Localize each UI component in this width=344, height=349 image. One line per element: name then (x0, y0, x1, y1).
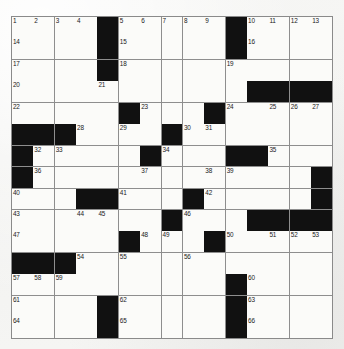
letter-square[interactable]: 8 (183, 17, 204, 38)
letter-square[interactable] (247, 231, 268, 252)
letter-square[interactable] (311, 317, 332, 338)
letter-square[interactable] (97, 167, 118, 188)
letter-square[interactable]: 61 (12, 296, 33, 317)
letter-square[interactable]: 26 (290, 103, 311, 124)
letter-square[interactable]: 19 (226, 60, 247, 81)
letter-square[interactable] (268, 38, 289, 59)
letter-square[interactable] (226, 124, 247, 145)
letter-square[interactable]: 9 (204, 17, 225, 38)
letter-square[interactable]: 20 (12, 81, 33, 102)
letter-square[interactable] (55, 210, 76, 231)
letter-square[interactable]: 54 (76, 253, 97, 274)
letter-square[interactable] (33, 60, 54, 81)
letter-square[interactable] (97, 146, 118, 167)
letter-square[interactable] (311, 296, 332, 317)
letter-square[interactable]: 1 (12, 17, 33, 38)
letter-square[interactable]: 52 (290, 231, 311, 252)
letter-square[interactable]: 32 (33, 146, 54, 167)
letter-square[interactable]: 65 (119, 317, 140, 338)
letter-square[interactable] (268, 167, 289, 188)
letter-square[interactable] (33, 81, 54, 102)
letter-square[interactable]: 46 (183, 210, 204, 231)
letter-square[interactable]: 48 (140, 231, 161, 252)
letter-square[interactable] (204, 81, 225, 102)
letter-square[interactable]: 21 (97, 81, 118, 102)
letter-square[interactable] (311, 253, 332, 274)
letter-square[interactable] (162, 167, 183, 188)
letter-square[interactable]: 40 (12, 189, 33, 210)
letter-square[interactable]: 14 (12, 38, 33, 59)
letter-square[interactable] (268, 317, 289, 338)
letter-square[interactable]: 5 (119, 17, 140, 38)
letter-square[interactable] (162, 296, 183, 317)
letter-square[interactable] (140, 274, 161, 295)
letter-square[interactable]: 30 (183, 124, 204, 145)
letter-square[interactable] (290, 296, 311, 317)
letter-square[interactable] (268, 274, 289, 295)
letter-square[interactable] (290, 189, 311, 210)
letter-square[interactable] (140, 124, 161, 145)
letter-square[interactable]: 47 (12, 231, 33, 252)
letter-square[interactable] (162, 253, 183, 274)
letter-square[interactable]: 56 (183, 253, 204, 274)
letter-square[interactable] (183, 146, 204, 167)
letter-square[interactable] (247, 189, 268, 210)
letter-square[interactable]: 60 (247, 274, 268, 295)
letter-square[interactable]: 25 (268, 103, 289, 124)
letter-square[interactable] (183, 274, 204, 295)
letter-square[interactable] (162, 317, 183, 338)
letter-square[interactable] (311, 124, 332, 145)
letter-square[interactable] (140, 60, 161, 81)
letter-square[interactable] (119, 210, 140, 231)
letter-square[interactable] (247, 60, 268, 81)
letter-square[interactable]: 55 (119, 253, 140, 274)
letter-square[interactable] (55, 81, 76, 102)
letter-square[interactable]: 45 (97, 210, 118, 231)
letter-square[interactable]: 27 (311, 103, 332, 124)
letter-square[interactable] (140, 296, 161, 317)
letter-square[interactable]: 38 (204, 167, 225, 188)
letter-square[interactable]: 17 (12, 60, 33, 81)
letter-square[interactable]: 62 (119, 296, 140, 317)
letter-square[interactable]: 50 (226, 231, 247, 252)
letter-square[interactable] (76, 146, 97, 167)
letter-square[interactable] (162, 274, 183, 295)
letter-square[interactable] (97, 103, 118, 124)
letter-square[interactable] (97, 124, 118, 145)
letter-square[interactable] (162, 60, 183, 81)
letter-square[interactable] (290, 146, 311, 167)
letter-square[interactable] (204, 274, 225, 295)
letter-square[interactable]: 53 (311, 231, 332, 252)
letter-square[interactable]: 2 (33, 17, 54, 38)
letter-square[interactable]: 29 (119, 124, 140, 145)
letter-square[interactable] (290, 167, 311, 188)
letter-square[interactable]: 44 (76, 210, 97, 231)
letter-square[interactable] (97, 274, 118, 295)
letter-square[interactable] (55, 103, 76, 124)
letter-square[interactable] (311, 274, 332, 295)
letter-square[interactable] (76, 317, 97, 338)
letter-square[interactable]: 35 (268, 146, 289, 167)
letter-square[interactable] (119, 274, 140, 295)
letter-square[interactable]: 37 (140, 167, 161, 188)
letter-square[interactable] (140, 38, 161, 59)
letter-square[interactable] (290, 60, 311, 81)
letter-square[interactable]: 58 (33, 274, 54, 295)
letter-square[interactable]: 64 (12, 317, 33, 338)
letter-square[interactable] (183, 231, 204, 252)
letter-square[interactable] (226, 253, 247, 274)
letter-square[interactable] (204, 317, 225, 338)
letter-square[interactable] (311, 38, 332, 59)
letter-square[interactable] (290, 38, 311, 59)
letter-square[interactable] (290, 253, 311, 274)
letter-square[interactable] (97, 253, 118, 274)
letter-square[interactable] (97, 231, 118, 252)
letter-square[interactable]: 10 (247, 17, 268, 38)
letter-square[interactable] (204, 38, 225, 59)
crossword-grid[interactable]: 1234567891011121314151617181920212223242… (11, 16, 333, 339)
letter-square[interactable] (55, 189, 76, 210)
letter-square[interactable] (183, 81, 204, 102)
letter-square[interactable]: 43 (12, 210, 33, 231)
letter-square[interactable] (268, 189, 289, 210)
letter-square[interactable]: 18 (119, 60, 140, 81)
